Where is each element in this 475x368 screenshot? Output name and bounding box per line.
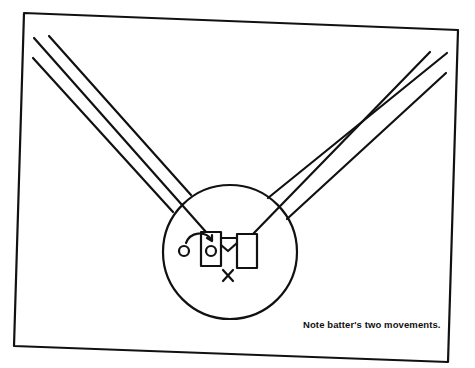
- left-foul-line-inner: [34, 38, 206, 232]
- batter-start-position: [179, 246, 189, 256]
- home-plate-point: [221, 243, 237, 251]
- right-foul-line-outer: [287, 73, 446, 219]
- right-foul-line-inner: [253, 52, 430, 234]
- batter-end-position: [206, 246, 216, 256]
- right-batters-box: [237, 234, 257, 268]
- left-foul-line-outer: [33, 58, 173, 212]
- frame-border: [14, 13, 458, 362]
- right-foul-line-middle: [268, 53, 447, 198]
- diagram-caption: Note batter's two movements.: [303, 319, 441, 330]
- batting-diagram: [0, 0, 475, 368]
- catcher-marker: [223, 270, 233, 281]
- left-foul-line-middle: [49, 36, 191, 195]
